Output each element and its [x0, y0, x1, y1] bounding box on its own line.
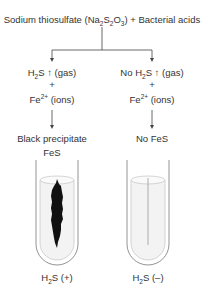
- left-gas-label: H2S ↑ (gas): [2, 67, 102, 78]
- right-result-line1: No FeS: [102, 133, 202, 144]
- left-ion-label: Fe2+ (ions): [2, 94, 102, 105]
- right-ion-sup: 2+: [141, 93, 148, 100]
- left-ion-sup: 2+: [41, 93, 48, 100]
- left-ion-suffix: (ions): [48, 94, 74, 105]
- title-text-prefix: Sodium thiosulfate (Na: [4, 14, 100, 25]
- right-gas-prefix: No H: [120, 67, 142, 78]
- left-gas-mid: S: [38, 67, 47, 78]
- left-ion-prefix: Fe: [30, 94, 41, 105]
- right-gas-label: No H2S ↑ (gas): [102, 67, 202, 78]
- right-plus: +: [102, 79, 202, 90]
- title-text-suffix: ) + Bacterial acids: [124, 14, 200, 25]
- left-gas-prefix: H: [28, 67, 35, 78]
- right-ion-label: Fe2+ (ions): [102, 94, 202, 105]
- right-tube-label-suffix: S (–): [143, 272, 164, 283]
- right-gas-suffix: (gas): [159, 67, 183, 78]
- left-gas-suffix: (gas): [52, 67, 76, 78]
- left-tube-label: H2S (+): [7, 272, 107, 283]
- right-ion-prefix: Fe: [130, 94, 141, 105]
- left-result-line2: FeS: [2, 147, 102, 158]
- title-text-mid2: O: [113, 14, 120, 25]
- left-result-line1: Black precipitate: [2, 133, 102, 144]
- test-tube-negative: [127, 160, 169, 265]
- left-plus: +: [2, 79, 102, 90]
- right-ion-suffix: (ions): [148, 94, 174, 105]
- title-reaction: Sodium thiosulfate (Na2S2O3) + Bacterial…: [0, 14, 204, 25]
- left-tube-label-suffix: S (+): [52, 272, 73, 283]
- right-tube-label: H2S (–): [98, 272, 198, 283]
- test-tube-positive: [36, 160, 78, 265]
- right-gas-mid: S: [146, 67, 155, 78]
